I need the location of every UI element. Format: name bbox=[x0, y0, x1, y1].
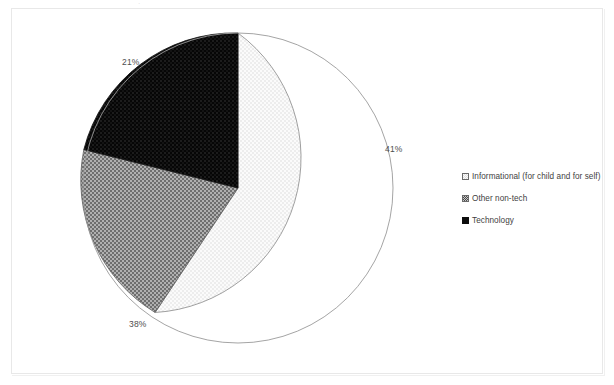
legend-item-technology[interactable]: Technology bbox=[462, 211, 602, 230]
legend-label-informational: Informational (for child and for self) bbox=[472, 172, 600, 181]
legend-item-informational[interactable]: Informational (for child and for self) bbox=[462, 167, 602, 186]
data-label-other-non-tech: 38% bbox=[129, 319, 147, 329]
screenshot-root: · bbox=[0, 0, 614, 385]
legend-swatch-technology-icon bbox=[462, 217, 469, 224]
data-label-technology: 21% bbox=[122, 57, 140, 67]
legend-item-other-non-tech[interactable]: Other non-tech bbox=[462, 189, 602, 208]
data-label-informational: 41% bbox=[385, 144, 403, 154]
legend-swatch-other-non-tech-icon bbox=[462, 195, 469, 202]
legend-label-technology: Technology bbox=[472, 216, 514, 225]
chart-legend: Informational (for child and for self) O… bbox=[462, 167, 602, 233]
legend-swatch-informational-icon bbox=[462, 173, 469, 180]
legend-label-other-non-tech: Other non-tech bbox=[472, 194, 527, 203]
